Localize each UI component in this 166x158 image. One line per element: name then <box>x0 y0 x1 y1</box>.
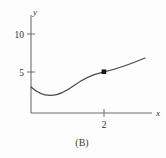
x-tick-label-2: 2 <box>102 120 107 130</box>
figure-caption: (B) <box>75 137 88 149</box>
y-tick-label-10: 10 <box>15 30 25 40</box>
marked-point-square <box>102 69 107 74</box>
curve-path <box>31 58 145 95</box>
x-axis-title: x <box>155 108 160 118</box>
y-tick-label-5: 5 <box>19 68 24 78</box>
graph-plot: y x 10 5 2 (B) <box>0 0 166 158</box>
figure-container: y x 10 5 2 (B) <box>0 0 166 158</box>
y-axis-title: y <box>32 7 37 17</box>
